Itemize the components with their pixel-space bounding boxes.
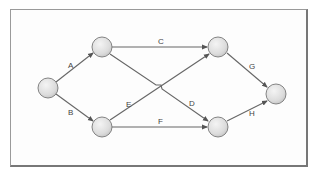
- label-a: A: [68, 61, 74, 70]
- edge-h: [227, 101, 267, 121]
- node-upper-2: [208, 37, 228, 57]
- label-g: G: [249, 62, 255, 71]
- label-d: D: [189, 99, 195, 108]
- label-e: E: [126, 100, 131, 109]
- network-diagram: A B C D E F G H: [0, 0, 318, 177]
- node-lower-2: [208, 117, 228, 137]
- node-lower-1: [92, 117, 112, 137]
- label-h: H: [249, 109, 255, 118]
- node-upper-1: [92, 37, 112, 57]
- label-c: C: [158, 37, 164, 46]
- label-f: F: [158, 117, 163, 126]
- node-end: [266, 84, 286, 104]
- edge-a: [56, 53, 93, 82]
- edge-g: [227, 53, 267, 87]
- edge-b: [56, 94, 93, 121]
- label-b: B: [68, 108, 73, 117]
- node-start: [38, 78, 58, 98]
